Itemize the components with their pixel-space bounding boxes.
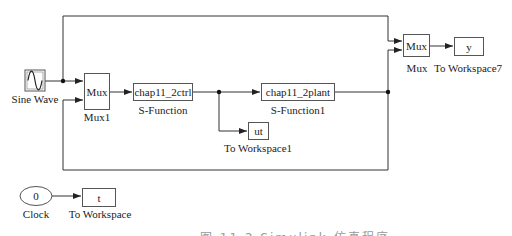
wires-layer [0,0,512,236]
label-sine-wave: Sine Wave [12,93,59,105]
wire-ctrl-to-ut [219,92,247,131]
label-clock: Clock [23,208,49,220]
to-workspace-t-block[interactable]: t [82,188,116,207]
clock-value: 0 [28,188,44,204]
mux1-block[interactable]: Mux [84,73,110,110]
label-to-workspace7: To Workspace7 [434,62,502,74]
label-mux1: Mux1 [84,111,110,123]
to-workspace-y-block[interactable]: y [454,37,484,56]
wire-sine-to-mux [63,16,402,81]
wire-plant-to-mux [388,50,402,92]
label-s-function1: S-Function1 [271,104,325,116]
label-s-function: S-Function [139,104,188,116]
junction-dot [61,79,65,83]
sine-wave-block[interactable] [25,70,45,91]
s-function-plant-block[interactable]: chap11_2plant [261,83,335,101]
figure-caption: 图 11.2 Simulink 仿真程序 [200,228,390,236]
label-mux: Mux [407,62,428,74]
to-workspace-ut-block[interactable]: ut [248,122,269,140]
label-to-workspace: To Workspace [69,208,132,220]
s-function-ctrl-block[interactable]: chap11_2ctrl [133,83,193,101]
label-to-workspace1: To Workspace1 [224,142,292,154]
junction-dot [386,90,390,94]
junction-dot [217,90,221,94]
mux-block[interactable]: Mux [403,34,430,57]
